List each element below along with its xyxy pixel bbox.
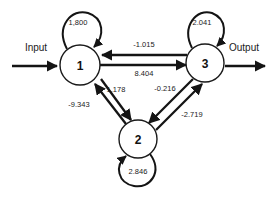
graph-svg: Input Output 1,800 2.041 2.846 -1.015 8.… — [0, 0, 276, 197]
self-loop-weight-node-2: 2.846 — [129, 167, 148, 176]
edge-weight-1-to-3: 8.404 — [135, 69, 154, 78]
node-label-2: 2 — [135, 133, 142, 147]
edge-weight-2-to-3: -2.719 — [181, 110, 202, 119]
input-label: Input — [25, 42, 47, 53]
edge-weight-2-to-1: -9.343 — [68, 100, 89, 109]
node-1[interactable]: 1 — [60, 45, 100, 85]
node-label-1: 1 — [77, 59, 84, 73]
edge-weight-3-to-1: -1.015 — [133, 40, 154, 49]
self-loop-weight-node-1: 1,800 — [69, 18, 88, 27]
node-label-3: 3 — [202, 57, 209, 71]
edge-weight-1-to-2: 1.178 — [107, 85, 126, 94]
diagram-canvas: Input Output 1,800 2.041 2.846 -1.015 8.… — [0, 0, 276, 197]
output-label: Output — [229, 42, 259, 53]
edge-weight-3-to-2: -0.216 — [154, 84, 175, 93]
node-3[interactable]: 3 — [186, 44, 224, 82]
node-2[interactable]: 2 — [119, 120, 157, 158]
self-loop-weight-node-3: 2.041 — [193, 18, 212, 27]
